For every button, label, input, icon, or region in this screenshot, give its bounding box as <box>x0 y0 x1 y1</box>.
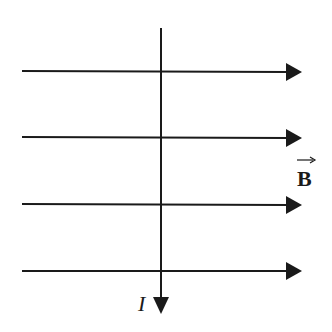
arrowhead-icon <box>286 129 302 147</box>
arrowhead-icon <box>286 196 302 214</box>
field-label-text: B <box>297 166 312 191</box>
field-label: B <box>297 157 315 191</box>
current-label: I <box>137 291 147 316</box>
arrowhead-icon <box>286 63 302 81</box>
diagram-canvas: B I <box>0 0 332 332</box>
current-arrowhead-icon <box>153 297 169 314</box>
arrowhead-icon <box>286 262 302 280</box>
